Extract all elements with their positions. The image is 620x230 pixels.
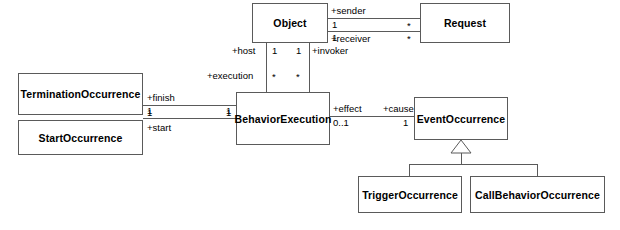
multiplicity-host-source: 1	[272, 46, 277, 56]
role-label-start: +start	[147, 123, 171, 133]
class-name-termination-occurrence: TerminationOccurrence	[17, 88, 145, 100]
multiplicity-start-source: 1	[147, 108, 152, 118]
generalization-stem	[461, 153, 462, 164]
assoc-line-object-behaviorexecution-host	[266, 43, 267, 92]
assoc-line-object-request-receiver	[328, 31, 420, 32]
class-box-event-occurrence[interactable]: EventOccurrence	[414, 97, 508, 140]
class-name-request: Request	[440, 17, 490, 29]
generalization-triangle-icon	[450, 140, 472, 154]
role-label-execution: +execution	[207, 71, 253, 81]
multiplicity-invoker-source: 1	[296, 46, 301, 56]
assoc-line-object-behaviorexecution-invoker	[309, 43, 310, 92]
generalization-line-trigger-occurrence	[409, 164, 410, 176]
role-label-sender: +sender	[331, 6, 366, 16]
uml-class-diagram: Object Request TerminationOccurrence Sta…	[0, 0, 620, 230]
multiplicity-receiver-target: *	[407, 34, 411, 44]
multiplicity-sender-target: *	[407, 21, 411, 31]
class-name-start-occurrence: StartOccurrence	[35, 132, 127, 144]
role-label-host: +host	[232, 46, 256, 56]
class-box-trigger-occurrence[interactable]: TriggerOccurrence	[358, 176, 462, 213]
class-name-trigger-occurrence: TriggerOccurrence	[358, 189, 462, 201]
multiplicity-receiver-source: 1	[332, 33, 337, 43]
class-name-event-occurrence: EventOccurrence	[413, 113, 509, 125]
role-label-finish: +finish	[147, 93, 175, 103]
multiplicity-effect-source: 0..1	[333, 118, 349, 128]
class-box-behavior-execution[interactable]: BehaviorExecution	[236, 92, 330, 145]
multiplicity-invoker-target: *	[296, 72, 300, 82]
role-label-cause: +cause	[383, 104, 414, 114]
role-label-effect: +effect	[333, 104, 362, 114]
role-label-invoker: +invoker	[312, 46, 348, 56]
class-box-object[interactable]: Object	[252, 3, 328, 43]
class-box-call-behavior-occurrence[interactable]: CallBehaviorOccurrence	[470, 176, 605, 213]
generalization-split-bar	[409, 164, 538, 165]
multiplicity-execution-target: *	[272, 72, 276, 82]
generalization-line-call-behavior-occurrence	[537, 164, 538, 176]
class-name-behavior-execution: BehaviorExecution	[231, 113, 336, 125]
class-name-call-behavior-occurrence: CallBehaviorOccurrence	[471, 189, 604, 201]
assoc-line-object-request-sender	[328, 18, 420, 19]
assoc-line-start-behaviorexecution-start	[143, 118, 236, 119]
class-name-object: Object	[269, 17, 310, 29]
class-box-request[interactable]: Request	[420, 3, 510, 43]
multiplicity-cause-target: 1	[403, 118, 408, 128]
multiplicity-start-target: 1	[226, 108, 231, 118]
class-box-termination-occurrence[interactable]: TerminationOccurrence	[18, 73, 143, 115]
class-box-start-occurrence[interactable]: StartOccurrence	[18, 120, 143, 155]
assoc-line-termination-behaviorexecution-finish	[143, 105, 236, 106]
multiplicity-sender-source: 1	[332, 20, 337, 30]
